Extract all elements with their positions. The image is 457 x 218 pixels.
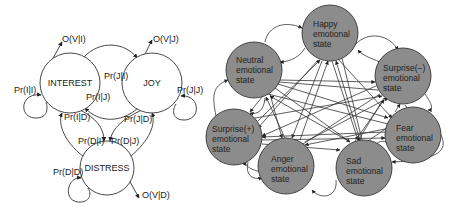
node-sad[interactable]: Sad emotional state xyxy=(336,140,392,196)
label-pr-i-j: Pr(I|J) xyxy=(86,92,110,102)
node-surprise-positive-line3: state xyxy=(212,144,231,154)
node-happy-line2: emotional xyxy=(313,29,350,39)
node-anger-line2: emotional xyxy=(271,164,308,174)
node-sad-line1: Sad xyxy=(346,156,361,166)
node-fear-line2: emotional xyxy=(396,133,433,143)
node-label-distress: DISTRESS xyxy=(84,163,129,173)
node-happy-line3: state xyxy=(313,39,332,49)
label-o-v-j: O(V|J) xyxy=(153,34,179,44)
node-neutral-line3: state xyxy=(236,75,255,85)
arc-interest-to-joy xyxy=(84,45,137,58)
label-pr-d-j: Pr(D|J) xyxy=(111,136,139,146)
node-surprise-positive-line2: emotional xyxy=(212,134,249,144)
node-surprise-negative-line3: state xyxy=(383,83,402,93)
label-o-v-d: O(V|D) xyxy=(142,190,170,200)
self-loop-interest xyxy=(24,95,47,118)
node-happy[interactable]: Happy emotional state xyxy=(302,5,358,61)
label-pr-d-i: Pr(D|I) xyxy=(78,136,104,146)
node-fear[interactable]: Fear emotional state xyxy=(385,107,441,163)
emotion-state-diagrams: INTEREST JOY DISTRESS O(V|I) O(V|J) O(V|… xyxy=(0,0,457,218)
label-pr-i-d: Pr(I|D) xyxy=(64,112,90,122)
node-fear-line3: state xyxy=(396,143,415,153)
node-surprise-negative[interactable]: Surprise(−) emotional state xyxy=(375,48,431,104)
node-fear-line1: Fear xyxy=(396,123,414,133)
node-happy-line1: Happy xyxy=(313,19,338,29)
node-neutral[interactable]: Neutral emotional state xyxy=(226,42,282,98)
node-anger-line1: Anger xyxy=(271,154,294,164)
node-surprise-negative-line1: Surprise(−) xyxy=(383,63,425,73)
label-pr-j-d: Pr(J|D) xyxy=(124,114,152,124)
node-label-interest: INTEREST xyxy=(48,78,93,88)
node-anger-line3: state xyxy=(271,174,290,184)
node-surprise-negative-line2: emotional xyxy=(383,73,420,83)
node-neutral-line2: emotional xyxy=(236,65,273,75)
node-anger[interactable]: Anger emotional state xyxy=(258,138,314,194)
label-pr-i-i: Pr(I|I) xyxy=(14,85,36,95)
node-neutral-line1: Neutral xyxy=(236,55,264,65)
node-surprise-positive[interactable]: Surprise(+) emotional state xyxy=(206,109,262,165)
emission-arrow-distress xyxy=(129,180,139,198)
label-pr-d-d: Pr(D|D) xyxy=(53,167,83,177)
right-nodes: Happy emotional state Neutral emotional … xyxy=(206,5,441,196)
node-label-joy: JOY xyxy=(143,78,161,88)
node-sad-line2: emotional xyxy=(346,166,383,176)
label-pr-j-i: Pr(J|I) xyxy=(104,71,128,81)
node-surprise-positive-line1: Surprise(+) xyxy=(212,124,254,134)
label-o-v-i: O(V|I) xyxy=(62,34,86,44)
label-pr-j-j: Pr(J|J) xyxy=(177,85,203,95)
node-sad-line3: state xyxy=(346,176,365,186)
